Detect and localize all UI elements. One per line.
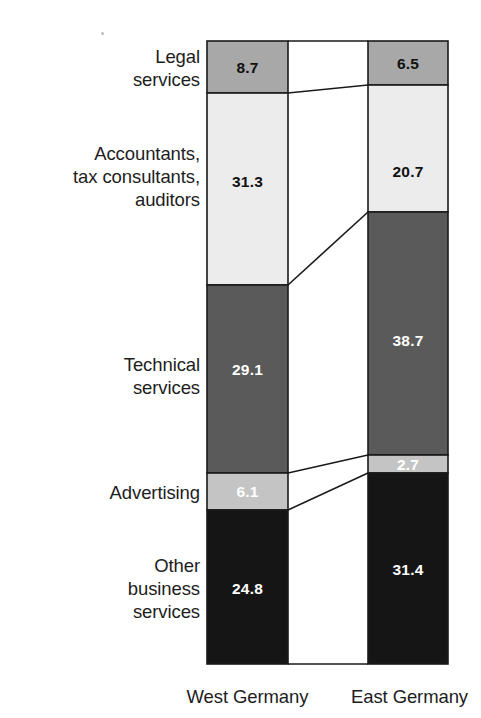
axis-label-west-germany: West Germany [175, 686, 320, 708]
value-east-other-business: 31.4 [368, 561, 448, 579]
bar-west-germany [207, 41, 288, 664]
value-west-advertising: 6.1 [207, 483, 288, 501]
connector-legal-accountants [288, 85, 368, 93]
connector-accountants-technical [288, 212, 368, 285]
value-east-technical-services: 38.7 [368, 332, 448, 350]
connector-technical-advertising [288, 455, 368, 473]
axis-label-east-germany: East Germany [337, 686, 481, 708]
value-east-accountants: 20.7 [368, 163, 448, 181]
connector-lines [288, 41, 368, 664]
segment-east-accountants [368, 85, 448, 212]
chart-canvas: Legal services Accountants, tax consulta… [0, 0, 481, 718]
stacked-bar-plot [0, 0, 481, 718]
value-west-technical-services: 29.1 [207, 361, 288, 379]
value-east-advertising: 2.7 [368, 456, 448, 474]
connector-advertising-other [288, 473, 368, 510]
value-west-legal-services: 8.7 [207, 59, 288, 77]
value-west-accountants: 31.3 [207, 173, 288, 191]
value-east-legal-services: 6.5 [368, 55, 448, 73]
segment-west-technical-services [207, 285, 288, 473]
value-west-other-business: 24.8 [207, 580, 288, 598]
